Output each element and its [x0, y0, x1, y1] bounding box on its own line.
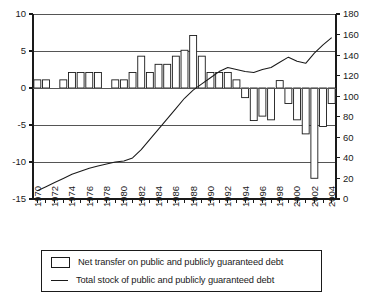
line-swatch-icon [51, 276, 68, 285]
bar-1995 [250, 88, 257, 121]
x-tick-label-2002: 2002 [309, 186, 320, 207]
bar-1988 [190, 35, 197, 88]
bar-1993 [233, 80, 240, 88]
bar-1994 [242, 88, 249, 98]
chart-figure: 1050-5-10-151801601401201008060402001970… [0, 0, 370, 304]
right-tick-label-40: 40 [343, 152, 354, 163]
bar-1999 [285, 88, 292, 104]
left-tick-label-5: 5 [21, 45, 26, 56]
bar-1996 [259, 88, 266, 116]
x-tick-label-1984: 1984 [153, 186, 164, 207]
x-tick-label-2004: 2004 [326, 186, 337, 207]
bar-1971 [43, 80, 50, 88]
bar-1982 [138, 56, 145, 88]
left-tick-label--5: -5 [18, 119, 26, 130]
bar-1998 [276, 81, 283, 88]
right-tick-label-180: 180 [343, 8, 359, 19]
bar-1992 [224, 72, 231, 88]
x-tick-label-2000: 2000 [291, 186, 302, 207]
bar-1985 [164, 64, 171, 88]
legend-item-label: Total stock of public and publicly guara… [76, 275, 274, 286]
x-tick-label-1996: 1996 [257, 186, 268, 207]
right-tick-label-60: 60 [343, 132, 354, 143]
bar-1991 [216, 72, 223, 88]
bar-1979 [112, 80, 119, 88]
x-tick-label-1978: 1978 [101, 186, 112, 207]
legend-item-net-transfer: Net transfer on public and publicly guar… [51, 253, 321, 271]
x-tick-label-1982: 1982 [136, 186, 147, 207]
bar-2003 [320, 88, 327, 126]
bar-1990 [207, 72, 214, 88]
x-tick-label-1976: 1976 [84, 186, 95, 207]
right-tick-label-100: 100 [343, 91, 359, 102]
bar-1989 [198, 56, 205, 88]
left-tick-label--15: -15 [12, 193, 26, 204]
bar-1973 [60, 80, 67, 88]
bar-1987 [181, 50, 188, 88]
right-tick-label-0: 0 [343, 193, 348, 204]
legend-item-label: Net transfer on public and publicly guar… [78, 257, 283, 268]
bar-1976 [86, 72, 93, 88]
bar-2002 [311, 88, 318, 178]
bar-1977 [94, 72, 101, 88]
right-tick-label-140: 140 [343, 50, 359, 61]
chart-legend: Net transfer on public and publicly guar… [41, 250, 322, 292]
bar-1980 [120, 80, 127, 88]
bar-2004 [328, 88, 335, 104]
bar-1975 [77, 72, 84, 88]
right-tick-label-120: 120 [343, 70, 359, 81]
right-tick-label-80: 80 [343, 111, 354, 122]
bar-2000 [294, 88, 301, 120]
bar-1974 [68, 72, 75, 88]
right-tick-label-20: 20 [343, 173, 354, 184]
bar-1970 [34, 80, 41, 88]
x-tick-label-1994: 1994 [240, 186, 251, 207]
x-tick-label-1992: 1992 [222, 186, 233, 207]
bar-2001 [302, 88, 309, 134]
bar-1981 [129, 72, 136, 88]
bar-swatch-icon [51, 257, 70, 268]
x-tick-label-1974: 1974 [66, 186, 77, 207]
legend-item-total-stock: Total stock of public and publicly guara… [51, 271, 321, 289]
right-tick-label-160: 160 [343, 29, 359, 40]
x-tick-label-1980: 1980 [118, 186, 129, 207]
bar-1983 [146, 72, 153, 88]
x-tick-label-1988: 1988 [188, 186, 199, 207]
bar-1997 [268, 88, 275, 120]
left-tick-label-10: 10 [15, 8, 26, 19]
x-tick-label-1990: 1990 [205, 186, 216, 207]
bar-1986 [172, 56, 179, 88]
left-tick-label-0: 0 [21, 82, 26, 93]
x-tick-label-1986: 1986 [170, 186, 181, 207]
left-tick-label--10: -10 [12, 156, 26, 167]
x-tick-label-1972: 1972 [49, 186, 60, 207]
x-tick-label-1998: 1998 [274, 186, 285, 207]
bar-1984 [155, 64, 162, 88]
